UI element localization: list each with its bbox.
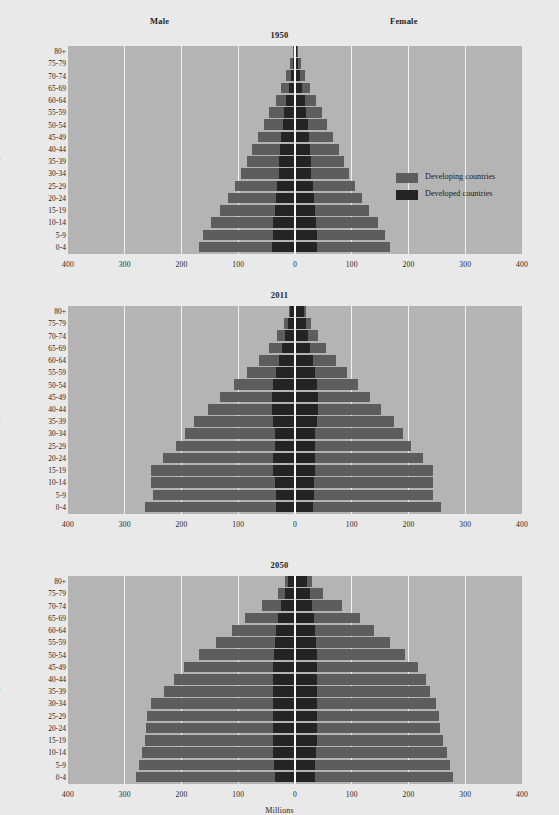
- y-tick-75-79: 75-79: [4, 589, 66, 598]
- x-tick-0: 400: [48, 520, 88, 529]
- bar-female-developed-25-29: [295, 711, 317, 722]
- bar-male-developed-65-69: [282, 343, 295, 354]
- bar-male-developing-25-29: [147, 711, 273, 722]
- bar-male-developing-55-59: [269, 107, 284, 118]
- bar-female-developing-60-64: [305, 95, 316, 106]
- bar-male-developing-15-19: [151, 465, 273, 476]
- y-tick-50-54: 50-54: [4, 381, 66, 390]
- bar-female-developing-65-69: [310, 343, 325, 354]
- x-tick-4: 0: [275, 790, 315, 799]
- bar-male-developing-40-44: [174, 674, 273, 685]
- bar-female-developed-10-14: [295, 747, 316, 758]
- bar-female-developed-0-4: [295, 242, 317, 253]
- bar-female-developing-20-24: [314, 193, 362, 204]
- bar-male-developed-50-54: [274, 649, 295, 660]
- bar-male-developed-15-19: [273, 735, 295, 746]
- bar-male-developed-5-9: [274, 760, 295, 771]
- bar-male-developing-20-24: [146, 723, 273, 734]
- bar-female-developing-55-59: [306, 107, 321, 118]
- bar-male-developing-10-14: [151, 477, 274, 488]
- y-tick-35-39: 35-39: [4, 157, 66, 166]
- bar-female-developed-15-19: [295, 465, 315, 476]
- bar-female-developed-45-49: [295, 662, 317, 673]
- x-tick-7: 300: [445, 520, 485, 529]
- bar-female-developing-70-74: [308, 330, 318, 341]
- bar-female-developing-0-4: [315, 772, 453, 783]
- bar-female-developed-10-14: [295, 217, 316, 228]
- bar-male-developing-80+: [285, 576, 288, 587]
- y-tick-80+: 80+: [4, 307, 66, 316]
- plot-area-2011: [68, 306, 522, 514]
- y-tick-65-69: 65-69: [4, 84, 66, 93]
- bar-male-developing-30-34: [241, 168, 278, 179]
- bar-male-developing-40-44: [208, 404, 272, 415]
- bar-female-developing-50-54: [317, 379, 358, 390]
- bar-male-developing-80+: [289, 306, 291, 317]
- bar-female-developing-60-64: [315, 625, 375, 636]
- bar-female-developing-10-14: [314, 477, 433, 488]
- y-tick-80+: 80+: [4, 577, 66, 586]
- bar-female-developing-45-49: [317, 662, 418, 673]
- bar-male-developed-45-49: [272, 392, 295, 403]
- x-tick-3: 100: [218, 260, 258, 269]
- y-tick-40-44: 40-44: [4, 405, 66, 414]
- x-tick-4: 0: [275, 520, 315, 529]
- y-tick-30-34: 30-34: [4, 169, 66, 178]
- bar-female-developing-55-59: [315, 367, 346, 378]
- bar-male-developed-0-4: [276, 502, 295, 513]
- bar-female-developing-45-49: [318, 392, 370, 403]
- y-tick-40-44: 40-44: [4, 145, 66, 154]
- y-tick-60-64: 60-64: [4, 356, 66, 365]
- bar-male-developing-30-34: [185, 428, 275, 439]
- bar-female-developing-30-34: [311, 168, 348, 179]
- bar-female-developing-25-29: [315, 441, 411, 452]
- bar-female-developed-30-34: [295, 698, 317, 709]
- y-tick-30-34: 30-34: [4, 429, 66, 438]
- bar-male-developed-5-9: [276, 490, 295, 501]
- x-tick-8: 400: [502, 790, 542, 799]
- bar-male-developing-55-59: [247, 367, 275, 378]
- bar-male-developed-55-59: [275, 637, 295, 648]
- bar-female-developed-20-24: [295, 193, 314, 204]
- y-tick-20-24: 20-24: [4, 454, 66, 463]
- bar-female-developing-50-54: [317, 649, 405, 660]
- bar-female-developed-50-54: [295, 119, 308, 130]
- bar-male-developing-35-39: [194, 416, 273, 427]
- x-tick-5: 100: [332, 260, 372, 269]
- y-tick-45-49: 45-49: [4, 133, 66, 142]
- bar-male-developing-50-54: [264, 119, 283, 130]
- bar-male-developed-10-14: [275, 477, 295, 488]
- y-tick-65-69: 65-69: [4, 344, 66, 353]
- bar-female-developed-45-49: [295, 132, 309, 143]
- bar-female-developed-70-74: [295, 600, 312, 611]
- legend-swatch-developing-icon: [396, 173, 418, 183]
- bar-female-developing-10-14: [316, 747, 447, 758]
- bar-male-developing-55-59: [216, 637, 275, 648]
- bar-female-developed-35-39: [295, 156, 311, 167]
- bar-male-developed-50-54: [273, 379, 295, 390]
- legend-swatch-developed-icon: [396, 190, 418, 200]
- bar-female-developing-5-9: [317, 230, 386, 241]
- bar-female-developing-40-44: [318, 404, 382, 415]
- population-pyramid-figure: Male Female 195080+75-7970-7465-6960-645…: [0, 0, 559, 815]
- y-tick-15-19: 15-19: [4, 206, 66, 215]
- bar-male-developing-10-14: [211, 217, 273, 228]
- bar-male-developed-35-39: [273, 416, 295, 427]
- y-tick-25-29: 25-29: [4, 712, 66, 721]
- bar-female-developing-45-49: [309, 132, 333, 143]
- bar-male-developing-15-19: [145, 735, 273, 746]
- x-tick-2: 200: [162, 520, 202, 529]
- legend-label-developing: Developing countries: [425, 172, 495, 181]
- bar-female-developed-75-79: [295, 588, 310, 599]
- bar-female-developing-5-9: [315, 760, 450, 771]
- x-tick-2: 200: [162, 790, 202, 799]
- bar-male-developed-20-24: [273, 453, 295, 464]
- bar-female-developed-25-29: [295, 441, 315, 452]
- bar-female-developing-0-4: [317, 242, 390, 253]
- bar-male-developing-25-29: [176, 441, 274, 452]
- bar-female-developed-60-64: [295, 355, 313, 366]
- bar-female-developed-20-24: [295, 453, 315, 464]
- bar-male-developed-10-14: [273, 747, 295, 758]
- y-tick-70-74: 70-74: [4, 72, 66, 81]
- bar-male-developed-25-29: [275, 441, 295, 452]
